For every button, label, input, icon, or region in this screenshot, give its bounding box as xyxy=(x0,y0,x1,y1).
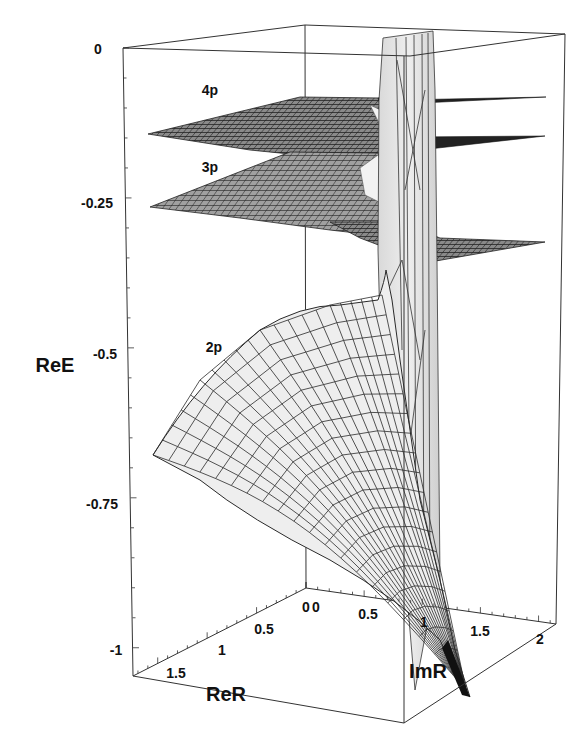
x-tick-label: 0.5 xyxy=(254,621,274,637)
y-tick-label: 2 xyxy=(536,631,544,647)
x-tick-label: 1.5 xyxy=(166,665,186,681)
z-tick-label: -1 xyxy=(110,642,123,658)
x-tick-label: 0 xyxy=(302,599,310,615)
x-axis-title: ReR xyxy=(206,683,247,705)
y-axis-title: ImR xyxy=(409,660,447,682)
series-label-2p: 2p xyxy=(206,339,222,355)
x-axis xyxy=(138,582,306,673)
series-label-3p: 3p xyxy=(202,159,218,175)
y-tick-label: 1.5 xyxy=(470,623,490,639)
z-tick-label: -0.75 xyxy=(86,496,118,512)
z-axis-title: ReE xyxy=(36,354,75,376)
y-tick-label: 0 xyxy=(312,599,320,615)
surface-plot: 0 -0.25 -0.5 -0.75 -1 0 0.5 1 1.5 0 0.5 … xyxy=(0,0,588,743)
surface-4p xyxy=(148,97,546,160)
z-tick-label: -0.25 xyxy=(81,195,113,211)
y-tick-label: 1 xyxy=(420,614,428,630)
series-label-4p: 4p xyxy=(202,82,218,98)
y-tick-label: 0.5 xyxy=(358,606,378,622)
z-tick-label: 0 xyxy=(94,41,102,57)
z-axis xyxy=(123,48,139,676)
z-tick-label: -0.5 xyxy=(93,346,117,362)
x-tick-label: 1 xyxy=(218,642,226,658)
